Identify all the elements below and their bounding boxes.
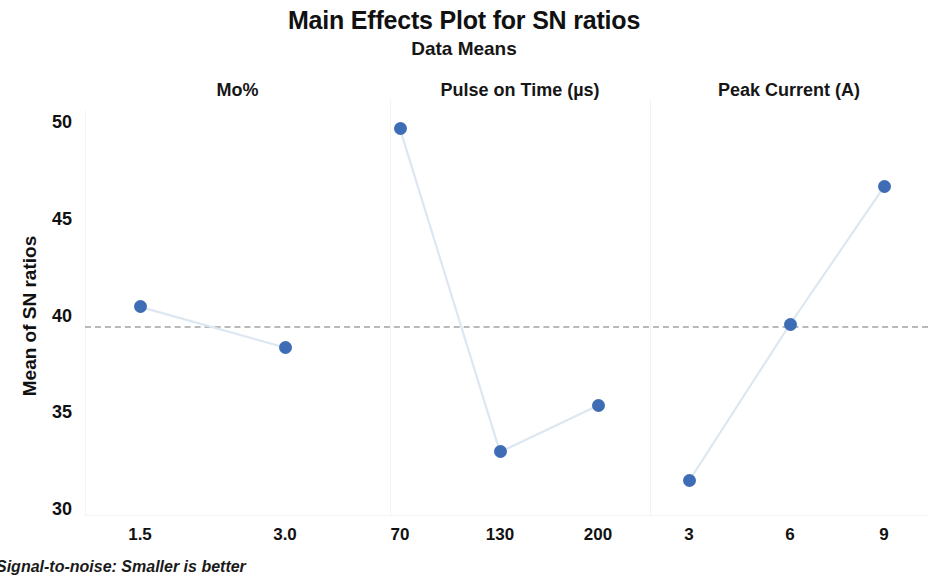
data-point [878,180,891,193]
y-tick-label: 30 [26,499,72,520]
x-tick-label: 3 [659,525,719,545]
data-point [494,445,507,458]
y-tick-label: 45 [26,209,72,230]
y-tick-label: 50 [26,112,72,133]
y-axis-line [85,110,86,515]
series-connector-lines [0,0,928,585]
plot-area [0,0,928,585]
chart-footnote: Signal-to-noise: Smaller is better [0,558,246,576]
series-line-2 [689,187,884,481]
x-tick-label: 1.5 [110,525,170,545]
panel-divider-1 [390,100,391,515]
x-axis-line [85,515,928,516]
x-tick-label: 3.0 [255,525,315,545]
x-tick-label: 70 [370,525,430,545]
panel-divider-2 [650,100,651,515]
data-point [683,474,696,487]
data-point [279,341,292,354]
y-tick-label: 40 [26,306,72,327]
data-point [784,318,797,331]
y-tick-label: 35 [26,402,72,423]
data-point [394,122,407,135]
main-effects-plot: Main Effects Plot for SN ratios Data Mea… [0,0,928,585]
x-tick-label: 130 [470,525,530,545]
reference-line [85,326,928,328]
data-point [592,399,605,412]
x-tick-label: 9 [854,525,914,545]
series-line-1 [400,129,598,452]
data-point [134,300,147,313]
x-tick-label: 6 [760,525,820,545]
x-tick-label: 200 [568,525,628,545]
